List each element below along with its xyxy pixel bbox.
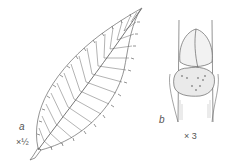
bud-drawing — [169, 20, 218, 122]
panel-b-scale: × 3 — [184, 131, 197, 141]
leaf-drawing — [30, 8, 142, 160]
botanical-illustration — [0, 0, 233, 168]
panel-a-scale: ×½ — [16, 137, 29, 147]
panel-a-label: a — [19, 122, 25, 132]
panel-b-label: b — [159, 115, 165, 125]
